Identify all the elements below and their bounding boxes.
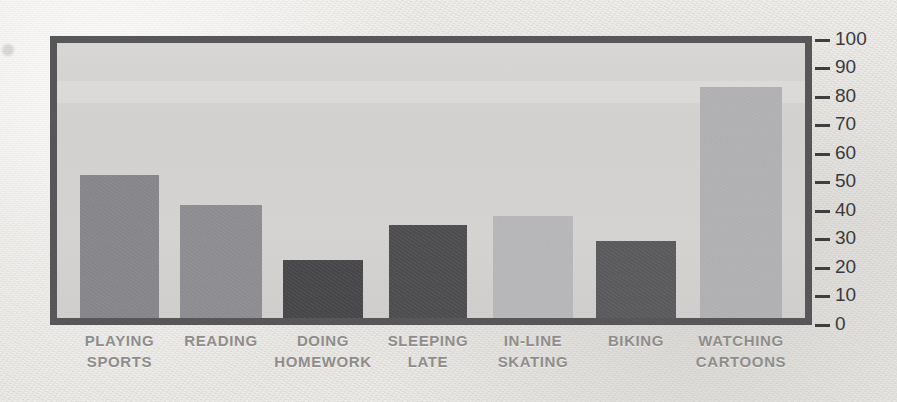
category-label-line1: IN-LINE xyxy=(504,332,562,349)
category-label-line2: SPORTS xyxy=(40,351,200,372)
bar-5 xyxy=(493,216,573,318)
y-tick-mark xyxy=(815,124,830,127)
bar-3 xyxy=(283,260,363,318)
y-tick-mark xyxy=(815,238,830,241)
y-tick-label: 70 xyxy=(835,113,856,135)
y-tick-label: 40 xyxy=(835,199,856,221)
y-tick-label: 0 xyxy=(835,313,846,335)
bar-4 xyxy=(389,225,467,319)
y-tick-mark xyxy=(815,267,830,270)
y-tick-label: 30 xyxy=(835,227,856,249)
y-tick-mark xyxy=(815,324,830,327)
bar-2 xyxy=(180,205,262,318)
y-tick-label: 90 xyxy=(835,56,856,78)
category-label-line1: WATCHING xyxy=(698,332,783,349)
y-tick-mark xyxy=(815,96,830,99)
y-tick-mark xyxy=(815,181,830,184)
bars-container xyxy=(57,43,805,318)
y-tick-mark xyxy=(815,39,830,42)
category-label-line2: CARTOONS xyxy=(661,351,821,372)
y-tick-mark xyxy=(815,153,830,156)
y-tick-mark xyxy=(815,210,830,213)
y-tick-label: 100 xyxy=(835,28,867,50)
chart-plot-frame xyxy=(50,36,812,325)
category-label-line2: SKATING xyxy=(453,351,613,372)
y-tick-mark xyxy=(815,67,830,70)
bar-6 xyxy=(596,241,676,318)
category-label-line1: DOING xyxy=(297,332,349,349)
bar-1 xyxy=(80,175,159,318)
y-tick-label: 50 xyxy=(835,170,856,192)
bar-7 xyxy=(700,87,782,318)
category-label-7: WATCHINGCARTOONS xyxy=(661,330,821,372)
y-axis: 0102030405060708090100 xyxy=(812,0,897,402)
chart-page: 0102030405060708090100 PLAYINGSPORTSREAD… xyxy=(0,0,897,402)
paper-speck xyxy=(2,44,14,56)
x-axis-category-labels: PLAYINGSPORTSREADINGDOINGHOMEWORKSLEEPIN… xyxy=(50,330,812,396)
y-tick-label: 10 xyxy=(835,284,856,306)
y-tick-label: 80 xyxy=(835,85,856,107)
y-tick-label: 20 xyxy=(835,256,856,278)
y-tick-label: 60 xyxy=(835,142,856,164)
y-tick-mark xyxy=(815,295,830,298)
category-label-line1: BIKING xyxy=(608,332,664,349)
